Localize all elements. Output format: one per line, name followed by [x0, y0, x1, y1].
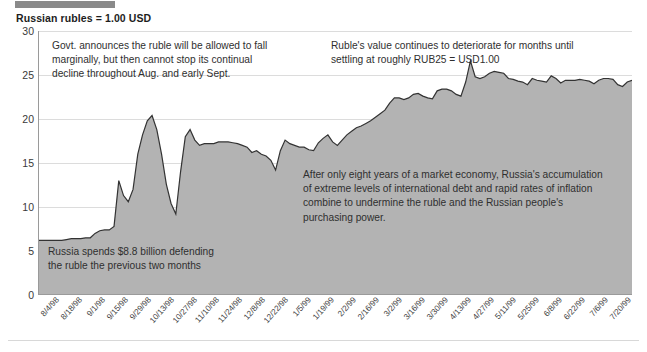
- annotation-govt-announces-line-2: marginally, but then cannot stop its con…: [52, 53, 314, 67]
- y-axis-label-30: 30: [0, 26, 34, 37]
- y-axis-label-25: 25: [0, 70, 34, 81]
- axis-bottom-line: [38, 294, 632, 295]
- annotation-market-economy-line-4: purchasing power.: [303, 211, 603, 225]
- x-axis-label-19: 4/27/99: [471, 296, 495, 322]
- x-axis-label-23: 6/22/99: [563, 296, 587, 322]
- axis-left-line: [38, 31, 39, 295]
- annotation-govt-announces-line-1: Govt. announces the ruble will be allowe…: [52, 39, 314, 53]
- x-axis-label-8: 11/24/98: [217, 296, 244, 325]
- x-axis-label-20: 5/11/99: [494, 296, 518, 321]
- annotation-russia-spends-line-2: the ruble the previous two months: [48, 259, 288, 273]
- bottom-divider: [8, 340, 639, 341]
- y-axis-label-15: 15: [0, 158, 34, 169]
- x-axis-label-3: 9/15/98: [106, 296, 130, 322]
- x-axis-label-18: 4/13/99: [448, 296, 472, 322]
- annotation-govt-announces: Govt. announces the ruble will be allowe…: [52, 39, 314, 82]
- x-axis-label-17: 3/30/99: [426, 296, 450, 322]
- x-axis-label-25: 7/20/99: [608, 296, 632, 322]
- x-axis-label-24: 7/6/99: [588, 296, 609, 318]
- annotation-russia-spends-line-1: Russia spends $8.8 billion defending: [48, 245, 288, 259]
- annotation-market-economy-line-3: combine to undermine the ruble and the R…: [303, 196, 603, 210]
- x-axis-label-16: 3/16/99: [403, 296, 427, 322]
- y-axis-label-5: 5: [0, 246, 34, 257]
- page-title: Russian rubles = 1.00 USD: [16, 12, 151, 24]
- annotation-market-economy-line-1: After only eight years of a market econo…: [303, 168, 603, 182]
- y-axis-label-0: 0: [0, 290, 34, 301]
- annotation-ruble-deteriorate-line-2: settling at roughly RUB25 = USD1.00: [331, 53, 629, 67]
- annotation-market-economy-line-2: of extreme levels of international debt …: [303, 182, 603, 196]
- y-axis-label-20: 20: [0, 114, 34, 125]
- annotation-russia-spends: Russia spends $8.8 billion defendingthe …: [48, 245, 288, 273]
- annotation-ruble-deteriorate: Ruble's value continues to deteriorate f…: [331, 39, 629, 67]
- x-axis-label-1: 8/18/98: [60, 296, 84, 322]
- annotation-govt-announces-line-3: decline throughout Aug. and early Sept.: [52, 67, 314, 81]
- x-axis-label-21: 5/25/99: [517, 296, 541, 322]
- y-axis-label-10: 10: [0, 202, 34, 213]
- annotation-market-economy: After only eight years of a market econo…: [303, 168, 603, 225]
- x-axis-label-14: 2/16/99: [357, 296, 381, 322]
- x-axis-label-11: 1/5/99: [291, 296, 312, 318]
- header-tag-bar: [15, 1, 115, 8]
- annotation-ruble-deteriorate-line-1: Ruble's value continues to deteriorate f…: [331, 39, 629, 53]
- x-axis-label-12: 1/19/99: [311, 296, 335, 322]
- y-axis: 051015202530: [0, 31, 34, 295]
